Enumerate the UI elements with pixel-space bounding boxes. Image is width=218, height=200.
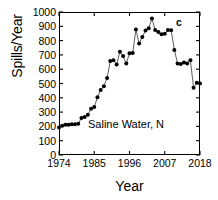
data-point <box>115 63 119 67</box>
data-point <box>144 29 148 33</box>
data-point <box>185 61 189 65</box>
data-point <box>172 48 176 52</box>
chart-canvas <box>0 0 218 200</box>
data-point <box>137 41 141 45</box>
data-point <box>192 86 196 90</box>
data-point <box>86 113 90 117</box>
data-point <box>76 122 80 126</box>
data-point <box>169 28 173 32</box>
chart-figure: Spills/Year Year 01002003004005006007008… <box>0 0 218 200</box>
data-point <box>118 50 122 54</box>
data-point <box>121 54 125 58</box>
data-point <box>95 95 99 99</box>
data-point <box>105 76 109 80</box>
series-annotation: Saline Water, N <box>88 118 164 130</box>
data-point <box>99 88 103 92</box>
data-point <box>111 58 115 62</box>
data-point <box>134 27 138 31</box>
data-point <box>147 26 151 30</box>
data-point <box>92 105 96 109</box>
data-point <box>188 58 192 62</box>
data-point <box>124 61 128 65</box>
data-point <box>102 84 106 88</box>
data-point <box>163 32 167 36</box>
data-point <box>140 35 144 39</box>
data-point <box>131 51 135 55</box>
panel-letter: c <box>176 16 182 28</box>
data-point <box>150 17 154 21</box>
series-line <box>59 19 200 128</box>
data-point <box>198 82 202 86</box>
data-point <box>83 115 87 119</box>
